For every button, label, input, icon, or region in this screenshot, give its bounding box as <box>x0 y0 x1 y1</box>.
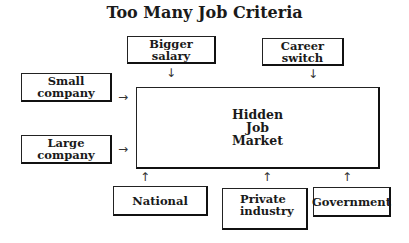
national-box: National <box>113 186 208 216</box>
national-label: National <box>132 195 188 207</box>
government-box: Government <box>313 187 391 217</box>
bigger-salary-label: Bigger salary <box>128 38 214 62</box>
bigger-salary-box: Bigger salary <box>127 36 216 64</box>
career-switch-box: Career switch <box>262 38 344 66</box>
small-company-box: Small company <box>21 73 112 102</box>
up-arrow-icon: ↑ <box>342 171 352 183</box>
small-company-label: Small company <box>22 75 110 99</box>
private-industry-label-line2: industry <box>240 205 294 217</box>
up-arrow-icon: ↑ <box>262 171 272 183</box>
large-company-label: Large company <box>22 137 110 161</box>
government-label: Government <box>312 196 391 208</box>
diagram-title: Too Many Job Criteria <box>0 3 409 22</box>
right-arrow-icon: → <box>118 91 128 103</box>
down-arrow-icon: ↓ <box>166 67 176 79</box>
hidden-job-market-box: Hidden Job Market <box>136 87 380 169</box>
large-company-box: Large company <box>21 135 112 164</box>
right-arrow-icon: → <box>118 143 128 155</box>
private-industry-box: Private industry <box>222 188 308 230</box>
down-arrow-icon: ↓ <box>308 68 318 80</box>
career-switch-label: Career switch <box>263 40 342 64</box>
up-arrow-icon: ↑ <box>140 171 150 183</box>
center-label-line3: Market <box>232 134 283 147</box>
